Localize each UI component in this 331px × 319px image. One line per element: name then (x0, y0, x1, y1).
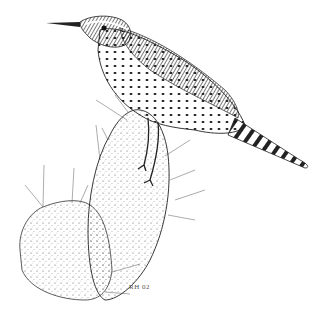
bird-eye (102, 26, 107, 31)
bird-on-cactus-illustration (0, 0, 331, 319)
cactus-pad-upright (88, 110, 169, 300)
bird-beak (46, 22, 80, 27)
bird-head (80, 16, 131, 47)
artist-signature: RH 02 (129, 283, 150, 291)
